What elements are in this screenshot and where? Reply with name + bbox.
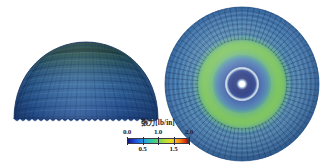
- colorbar-ticks-top: 0.0 1.0 2.0: [112, 128, 204, 137]
- colorbar-tick-05: 0.5: [138, 146, 146, 153]
- colorbar-tickmark-15: [174, 137, 175, 145]
- colorbar-tick-2: 2.0: [185, 129, 193, 136]
- dome-shading: [10, 38, 164, 124]
- colorbar-ticks-bottom: 0.5 1.5: [112, 145, 204, 154]
- colorbar-tick-1: 1.0: [154, 129, 162, 136]
- colorbar-tickmark-0: [127, 137, 128, 145]
- dome-mesh: [10, 38, 164, 124]
- colorbar-title-label: 張力: [141, 118, 155, 127]
- colorbar-tick-0: 0.0: [123, 129, 131, 136]
- colorbar-title-unit: [lb/in]: [155, 119, 174, 127]
- tension-colorbar-legend: 張力[lb/in] 0.0 1.0 2.0 0.5 1.5: [112, 119, 204, 165]
- perspective-dome-view: [10, 38, 164, 124]
- colorbar-tickmark-20: [189, 137, 190, 145]
- figure-canvas: 張力[lb/in] 0.0 1.0 2.0 0.5 1.5: [0, 0, 325, 168]
- colorbar-tick-15: 1.5: [169, 146, 177, 153]
- colorbar-bar-wrap: [112, 137, 204, 145]
- colorbar-tickmark-10: [158, 137, 159, 145]
- colorbar-tickmark-05: [143, 137, 144, 145]
